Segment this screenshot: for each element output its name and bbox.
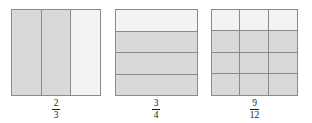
fraction-cell (240, 53, 268, 74)
fraction-denominator: 4 (152, 110, 161, 120)
fraction-cell (212, 10, 240, 31)
fraction-label-two-thirds: 2 3 (0, 99, 112, 120)
fraction-denominator: 12 (248, 110, 262, 120)
fraction-figure-three-fourths: 3 4 (104, 0, 208, 123)
fraction-cell (269, 53, 297, 74)
fraction-cell (12, 10, 41, 95)
fraction-numerator: 2 (52, 99, 61, 110)
fraction-figure-two-thirds: 2 3 (0, 0, 112, 123)
fraction-cell (116, 10, 197, 31)
fraction-cell (240, 74, 268, 95)
fraction-square-two-thirds (11, 9, 101, 96)
fraction-cell (269, 10, 297, 31)
fraction-cell (269, 31, 297, 52)
fraction-label-three-fourths: 3 4 (104, 99, 208, 120)
fraction-cell (240, 31, 268, 52)
fraction-cell (116, 52, 197, 74)
fraction-cell (212, 31, 240, 52)
fraction-numerator: 9 (250, 99, 259, 110)
fraction-cell (116, 74, 197, 96)
fraction-cell (269, 74, 297, 95)
fraction-square-three-fourths (115, 9, 198, 96)
fraction-cell (212, 53, 240, 74)
fraction-cell (240, 10, 268, 31)
fraction-square-nine-twelfths (211, 9, 298, 96)
fraction-cell (212, 74, 240, 95)
fraction-numerator: 3 (152, 99, 161, 110)
fraction-figure-nine-twelfths: 9 12 (208, 0, 312, 123)
fraction-cell (70, 10, 100, 95)
fraction-denominator: 3 (52, 110, 61, 120)
fraction-label-nine-twelfths: 9 12 (208, 99, 301, 120)
fraction-cell (41, 10, 71, 95)
fraction-cell (116, 31, 197, 53)
fraction-figures-row: 2 3 3 4 (0, 0, 312, 123)
